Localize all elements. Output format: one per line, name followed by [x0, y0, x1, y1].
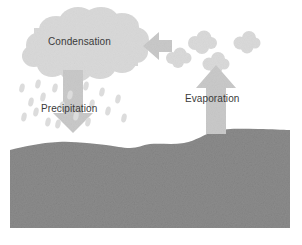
- condensation-label: Condensation: [48, 36, 111, 48]
- vapor-puff: [234, 31, 261, 54]
- precipitation-label: Precipitation: [41, 103, 97, 115]
- vapor-puff-group: [166, 31, 261, 75]
- sky-layer: [0, 0, 302, 245]
- evaporation-label: Evaporation: [185, 93, 239, 105]
- water-cycle-diagram: Condensation Precipitation Evaporation: [0, 0, 302, 245]
- vapor-puff: [188, 31, 217, 55]
